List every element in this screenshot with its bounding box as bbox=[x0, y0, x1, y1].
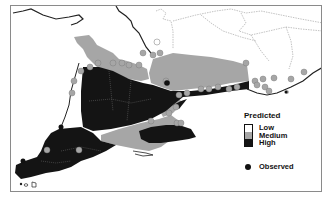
legend-label-observed: Observed bbox=[259, 162, 294, 171]
legend-scale: Low Medium High bbox=[244, 124, 314, 147]
st-lawrence-shore bbox=[247, 67, 322, 95]
legend-title: Predicted bbox=[244, 111, 314, 120]
map-legend: Predicted Low Medium High Observed bbox=[244, 111, 314, 171]
island bbox=[32, 182, 36, 187]
northern-shoreline bbox=[13, 9, 83, 25]
legend-labels: Low Medium High bbox=[259, 124, 287, 147]
legend-swatch-high bbox=[245, 139, 252, 146]
georgian-bay-shore bbox=[116, 6, 153, 57]
island bbox=[24, 184, 28, 187]
legend-swatch-low bbox=[245, 125, 252, 132]
legend-observed: Observed bbox=[244, 162, 314, 171]
observed-dot-icon bbox=[245, 164, 251, 170]
island bbox=[20, 183, 22, 185]
white-point bbox=[154, 39, 160, 45]
map-frame: Predicted Low Medium High Observed bbox=[10, 5, 322, 192]
lake-erie-shore bbox=[133, 151, 153, 156]
legend-swatch-medium bbox=[245, 132, 252, 139]
legend-label-high: High bbox=[259, 139, 287, 147]
legend-swatches bbox=[244, 124, 253, 147]
high-region-southwest bbox=[15, 127, 116, 179]
